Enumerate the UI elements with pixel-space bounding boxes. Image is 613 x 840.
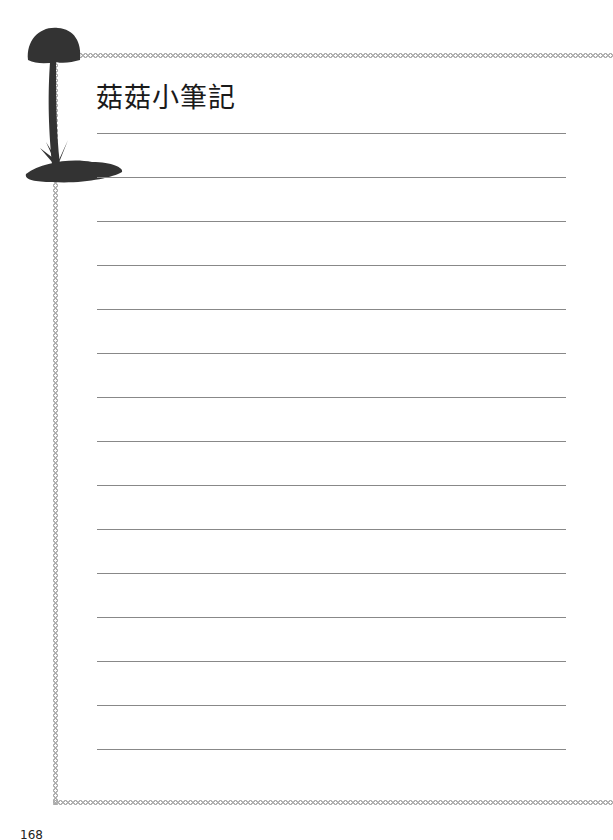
- page-title: 菇菇小筆記: [96, 76, 236, 115]
- writing-line[interactable]: [97, 309, 566, 310]
- dotted-border-top: [53, 53, 613, 58]
- page-number: 168: [20, 828, 43, 840]
- writing-line[interactable]: [97, 749, 566, 750]
- writing-line[interactable]: [97, 353, 566, 354]
- writing-line[interactable]: [97, 485, 566, 486]
- writing-line[interactable]: [97, 133, 566, 134]
- writing-lines: [97, 133, 566, 793]
- writing-line[interactable]: [97, 177, 566, 178]
- writing-line[interactable]: [97, 617, 566, 618]
- writing-line[interactable]: [97, 441, 566, 442]
- dotted-border-bottom: [53, 800, 613, 805]
- writing-line[interactable]: [97, 661, 566, 662]
- writing-line[interactable]: [97, 705, 566, 706]
- writing-line[interactable]: [97, 573, 566, 574]
- writing-line[interactable]: [97, 397, 566, 398]
- writing-line[interactable]: [97, 221, 566, 222]
- writing-line[interactable]: [97, 265, 566, 266]
- writing-line[interactable]: [97, 529, 566, 530]
